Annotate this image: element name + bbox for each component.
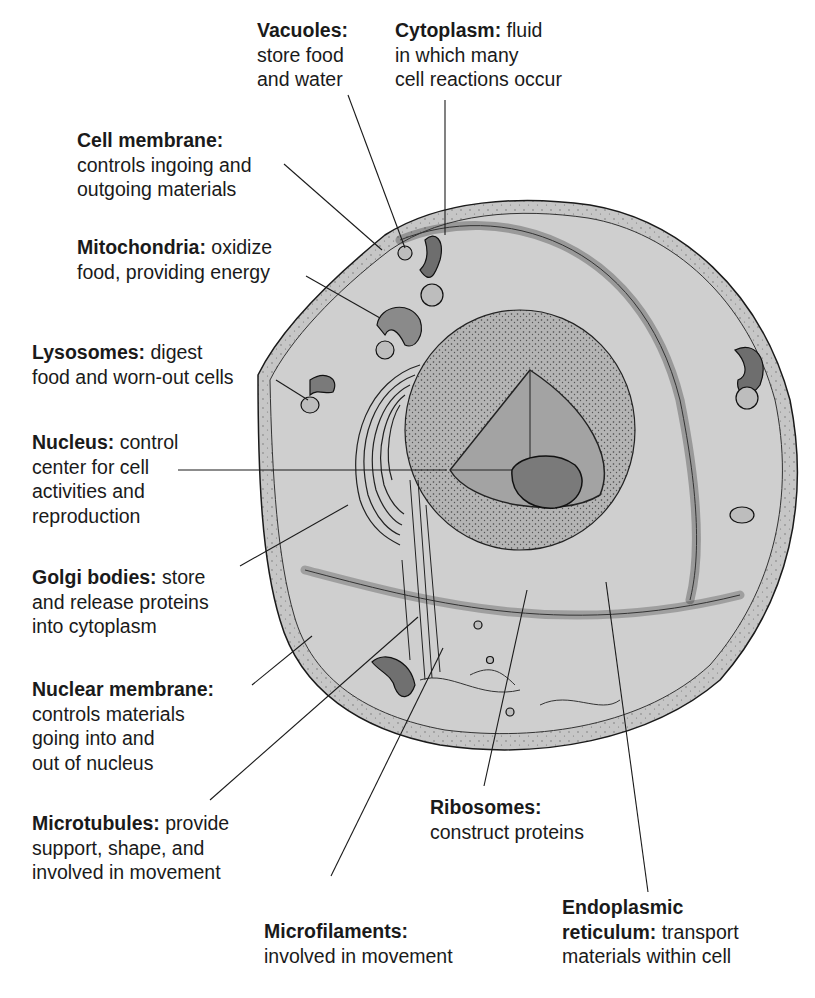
label-endoplasmic-reticulum: Endoplasmic reticulum: transport materia… — [562, 895, 739, 969]
vacuole — [398, 246, 412, 260]
label-vacuoles: Vacuoles: store food and water — [257, 18, 348, 92]
label-microtubules: Microtubules: provide support, shape, an… — [32, 811, 229, 885]
vacuole — [730, 507, 754, 523]
nucleus — [405, 310, 635, 550]
label-nuclear-membrane: Nuclear membrane: controls materials goi… — [32, 677, 214, 775]
term: Vacuoles: — [257, 19, 348, 41]
vacuole — [736, 387, 758, 409]
label-mitochondria: Mitochondria: oxidize food, providing en… — [77, 235, 272, 284]
lysosome — [301, 397, 319, 413]
label-lysosomes: Lysosomes: digest food and worn-out cell… — [32, 340, 234, 389]
label-microfilaments: Microfilaments: involved in movement — [264, 919, 453, 968]
label-ribosomes: Ribosomes: construct proteins — [430, 795, 584, 844]
label-nucleus: Nucleus: control center for cell activit… — [32, 430, 178, 528]
vacuole — [376, 341, 394, 359]
vacuole — [421, 284, 443, 306]
label-cytoplasm: Cytoplasm: fluid in which many cell reac… — [395, 18, 562, 92]
label-cell-membrane: Cell membrane: controls ingoing and outg… — [77, 128, 252, 202]
label-golgi-bodies: Golgi bodies: store and release proteins… — [32, 565, 209, 639]
mitochondrion — [310, 376, 335, 395]
